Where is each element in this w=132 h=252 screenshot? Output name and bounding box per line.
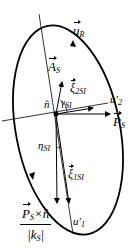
label-xi-2SI: ξ2SI <box>70 82 86 96</box>
label-gamma-SI: γSI <box>61 98 72 110</box>
ellipse-direction-arrow-bottom <box>29 172 35 180</box>
label-PS-cross-n-over-kS: PS×n̂ |kS| <box>20 206 51 243</box>
label-A-S: AS <box>48 60 60 75</box>
label-n-hat: n̂ <box>44 99 50 110</box>
eta-angle-arc <box>57 147 61 148</box>
label-u-R: uR <box>73 24 84 39</box>
label-u1-prime: u′1 <box>73 216 85 229</box>
xi-1SI-vector <box>56 114 69 203</box>
label-u2-prime: u′2 <box>110 94 122 107</box>
label-P-S: PS <box>113 115 125 130</box>
ellipse-direction-arrow-top <box>70 40 76 47</box>
label-eta-SI: ηSI <box>38 140 50 153</box>
label-xi-1SI: ξ1SI <box>68 168 84 182</box>
